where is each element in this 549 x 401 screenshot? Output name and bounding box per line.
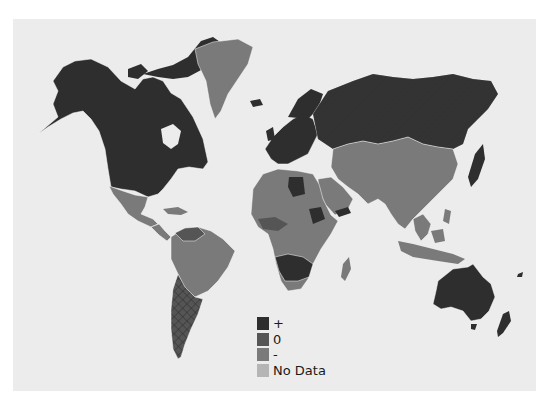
legend-label: - bbox=[273, 347, 278, 362]
legend-label: 0 bbox=[273, 332, 281, 347]
region-borneo bbox=[431, 229, 445, 243]
region-tasmania bbox=[471, 324, 477, 330]
region-new-zealand bbox=[497, 311, 511, 337]
legend-swatch-negative bbox=[257, 348, 269, 361]
legend-swatch-positive bbox=[257, 317, 269, 330]
legend-item-zero: 0 bbox=[257, 332, 326, 348]
region-australia bbox=[433, 264, 495, 321]
region-greenland bbox=[195, 39, 253, 119]
map-legend: + 0 - No Data bbox=[257, 316, 326, 378]
legend-label: No Data bbox=[273, 363, 326, 378]
region-arctic-islands-2 bbox=[128, 64, 148, 79]
region-pacific-islands bbox=[517, 272, 523, 277]
region-iceland bbox=[250, 99, 263, 107]
legend-item-positive: + bbox=[257, 316, 326, 332]
region-japan bbox=[468, 144, 485, 187]
region-uk bbox=[266, 127, 275, 141]
region-north-america bbox=[38, 59, 208, 197]
region-southeast-asia bbox=[413, 214, 431, 241]
legend-item-no-data: No Data bbox=[257, 363, 326, 379]
legend-item-negative: - bbox=[257, 347, 326, 363]
legend-label: + bbox=[273, 316, 284, 331]
region-philippines bbox=[443, 209, 451, 224]
region-caribbean bbox=[163, 207, 188, 215]
region-asia bbox=[331, 137, 458, 229]
region-central-america bbox=[151, 224, 171, 241]
region-indonesia bbox=[398, 241, 465, 264]
legend-swatch-zero bbox=[257, 333, 269, 346]
region-madagascar bbox=[341, 257, 351, 281]
legend-swatch-no-data bbox=[257, 364, 269, 377]
